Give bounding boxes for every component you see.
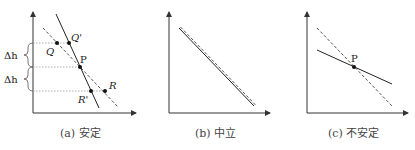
point-p <box>78 65 82 69</box>
label-delta-h-lower: Δh <box>4 74 18 85</box>
panel-c-label-p: P <box>351 53 358 64</box>
point-r-prime <box>89 89 93 93</box>
panel-c-point-p <box>352 65 356 69</box>
label-q: Q <box>46 46 54 57</box>
panel-b-solid-line <box>179 28 254 106</box>
panel-b-dashed-line <box>181 27 256 105</box>
label-q-prime: Q' <box>71 32 82 43</box>
caption-c: (c) 不安定 <box>328 124 379 140</box>
point-r <box>103 89 107 93</box>
caption-a: (a) 安定 <box>60 124 101 140</box>
label-r: R <box>108 80 117 91</box>
panel-a-brace-upper <box>24 43 33 67</box>
label-p: P <box>80 54 87 65</box>
panel-a-brace-lower <box>24 67 33 91</box>
label-r-prime: R' <box>77 94 88 105</box>
caption-b: (b) 中立 <box>195 124 236 140</box>
panel-c-unstable: P <box>307 12 408 113</box>
panel-a-stable: Q Q' P R' R Δh Δh <box>4 12 136 113</box>
point-q <box>55 41 59 45</box>
label-delta-h-upper: Δh <box>4 50 18 61</box>
panel-b-neutral <box>169 12 270 113</box>
